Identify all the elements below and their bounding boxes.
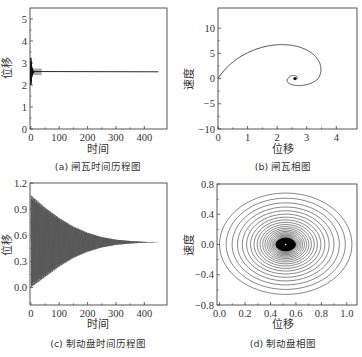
y-tick-label: 0.4 bbox=[201, 209, 215, 220]
y-tick-label: 0 bbox=[22, 124, 27, 135]
y-tick-label: 0.9 bbox=[14, 204, 27, 215]
x-tick-label: 0 bbox=[28, 132, 33, 143]
panel-c: 01002003004000.00.30.60.91.2 时间 位移 (c) 制… bbox=[0, 178, 167, 350]
plot-area-b: 01234−10−50510 bbox=[199, 8, 357, 143]
y-tick-label: 3 bbox=[22, 58, 27, 69]
plot-area-d: 0.00.20.40.60.81.0−0.8−0.40.00.40.8 bbox=[195, 179, 357, 320]
caption-d: (d) 制动盘相图 bbox=[250, 338, 316, 349]
figure-canvas: 0100200300400012345 时间 位移 (a) 闸瓦时间历程图 01… bbox=[0, 0, 362, 357]
ylabel-b: 速度 bbox=[182, 68, 196, 90]
plot-area-c: 01002003004000.00.30.60.91.2 bbox=[14, 178, 167, 320]
focus-point bbox=[293, 77, 296, 80]
y-tick-label: 0.8 bbox=[201, 179, 214, 190]
x-tick-label: 100 bbox=[51, 308, 67, 319]
axes-frame bbox=[218, 8, 357, 129]
y-tick-label: 0.0 bbox=[14, 282, 27, 293]
series-line bbox=[31, 58, 159, 85]
y-tick-label: −10 bbox=[199, 124, 215, 135]
ylabel-c: 位移 bbox=[0, 234, 14, 256]
y-tick-label: −5 bbox=[204, 98, 215, 109]
ylabel-a: 位移 bbox=[0, 57, 14, 79]
x-tick-label: 200 bbox=[80, 132, 96, 143]
y-tick-label: 4 bbox=[22, 36, 28, 47]
x-tick-label: 0 bbox=[215, 132, 220, 143]
center-point bbox=[285, 244, 287, 246]
x-tick-label: 1.0 bbox=[340, 308, 353, 319]
y-tick-label: −0.8 bbox=[195, 300, 214, 311]
xlabel-b: 位移 bbox=[272, 142, 294, 156]
x-tick-label: 0.2 bbox=[238, 308, 251, 319]
y-tick-label: 0.3 bbox=[14, 256, 27, 267]
y-tick-label: 0.0 bbox=[201, 239, 214, 250]
x-tick-label: 300 bbox=[108, 132, 124, 143]
panel-d: 0.00.20.40.60.81.0−0.8−0.40.00.40.8 位移 速… bbox=[182, 179, 357, 350]
caption-c: (c) 制动盘时间历程图 bbox=[50, 338, 146, 349]
x-tick-label: 2 bbox=[275, 132, 280, 143]
x-tick-label: 4 bbox=[334, 132, 340, 143]
panel-b: 01234−10−50510 位移 速度 (b) 闸瓦相图 bbox=[182, 8, 357, 172]
y-tick-label: 1.2 bbox=[14, 178, 27, 189]
caption-b: (b) 闸瓦相图 bbox=[255, 161, 311, 172]
plot-area-a: 0100200300400012345 bbox=[22, 8, 167, 143]
x-tick-label: 400 bbox=[136, 132, 152, 143]
x-tick-label: 0.0 bbox=[213, 308, 226, 319]
y-tick-label: 1 bbox=[22, 102, 27, 113]
xlabel-d: 位移 bbox=[272, 317, 294, 331]
x-tick-label: 1 bbox=[245, 132, 250, 143]
x-tick-label: 100 bbox=[51, 132, 67, 143]
phase-trajectory bbox=[218, 45, 321, 86]
y-tick-label: 5 bbox=[210, 48, 215, 59]
xlabel-c: 时间 bbox=[87, 318, 109, 331]
y-tick-label: 2 bbox=[22, 80, 27, 91]
x-tick-label: 0.8 bbox=[315, 308, 328, 319]
x-tick-label: 300 bbox=[108, 308, 124, 319]
xlabel-a: 时间 bbox=[87, 143, 109, 156]
ylabel-d: 速度 bbox=[182, 234, 196, 256]
y-tick-label: 0.6 bbox=[14, 230, 27, 241]
x-tick-label: 3 bbox=[304, 132, 309, 143]
axes-frame bbox=[30, 8, 167, 129]
y-tick-label: 5 bbox=[22, 14, 27, 25]
x-tick-label: 400 bbox=[136, 308, 152, 319]
caption-a: (a) 闸瓦时间历程图 bbox=[55, 161, 141, 172]
panel-a: 0100200300400012345 时间 位移 (a) 闸瓦时间历程图 bbox=[0, 8, 167, 172]
y-tick-label: −0.4 bbox=[195, 269, 215, 280]
y-tick-label: 10 bbox=[205, 23, 216, 34]
y-tick-label: 0 bbox=[210, 73, 215, 84]
x-tick-label: 0 bbox=[28, 308, 33, 319]
